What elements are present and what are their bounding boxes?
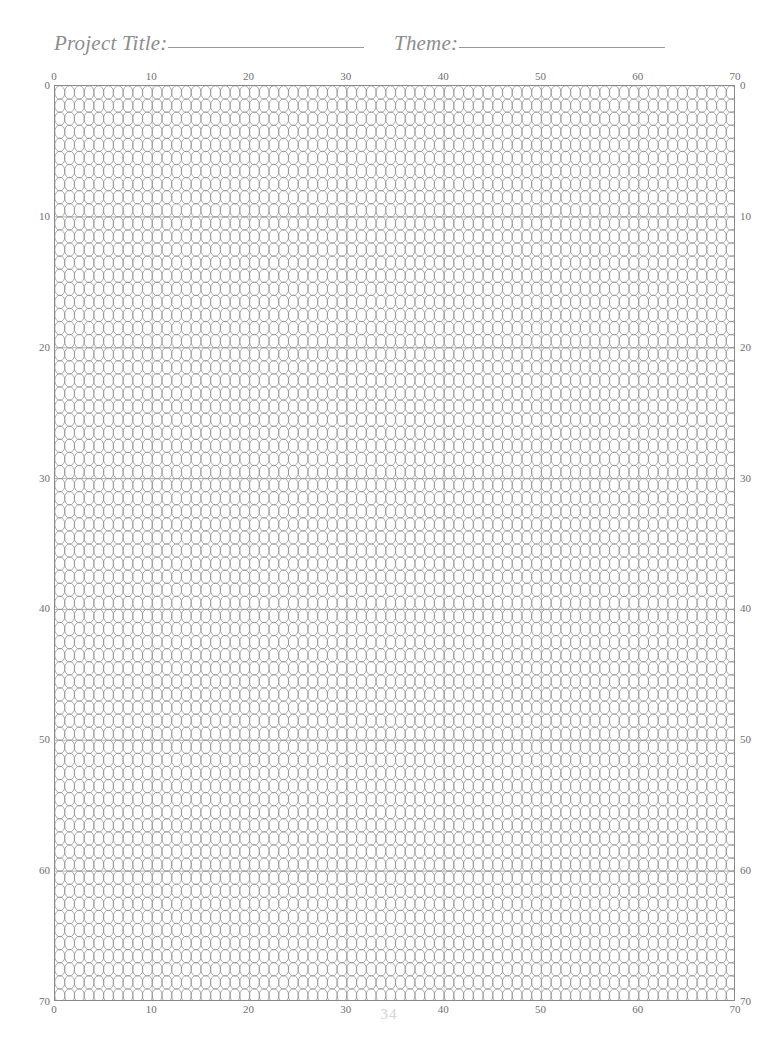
page-number: 34 [0,1006,778,1023]
axis-tick-top-0: 0 [51,71,57,82]
axis-tick-top-70: 70 [730,71,741,82]
axis-tick-left-40: 40 [39,603,50,614]
axis-tick-right-20: 20 [740,341,751,352]
axis-tick-left-30: 30 [39,472,50,483]
axis-tick-left-60: 60 [39,865,50,876]
theme-field[interactable]: Theme: [394,31,665,56]
axis-tick-top-40: 40 [438,71,449,82]
axis-tick-left-50: 50 [39,734,50,745]
axis-tick-right-70: 70 [740,995,751,1006]
axis-tick-left-10: 10 [39,210,50,221]
axis-tick-right-60: 60 [740,865,751,876]
project-title-field[interactable]: Project Title: [54,31,364,56]
axis-tick-right-0: 0 [740,80,746,91]
project-title-write-line[interactable] [168,47,364,48]
theme-label: Theme: [394,31,458,56]
axis-tick-left-0: 0 [45,80,51,91]
axis-tick-right-30: 30 [740,472,751,483]
circle-grid-svg [55,86,735,1001]
theme-write-line[interactable] [459,47,665,48]
axis-tick-top-30: 30 [340,71,351,82]
axis-tick-right-50: 50 [740,734,751,745]
circle-grid-canvas[interactable] [54,85,735,1001]
axis-tick-top-60: 60 [632,71,643,82]
circle-layer [55,86,735,1001]
axis-tick-top-10: 10 [146,71,157,82]
axis-tick-top-50: 50 [535,71,546,82]
project-title-label: Project Title: [54,31,167,56]
axis-tick-right-40: 40 [740,603,751,614]
page-header: Project Title: Theme: [0,0,778,68]
axis-tick-left-20: 20 [39,341,50,352]
axis-tick-top-20: 20 [243,71,254,82]
axis-tick-right-10: 10 [740,210,751,221]
axis-tick-left-70: 70 [39,995,50,1006]
